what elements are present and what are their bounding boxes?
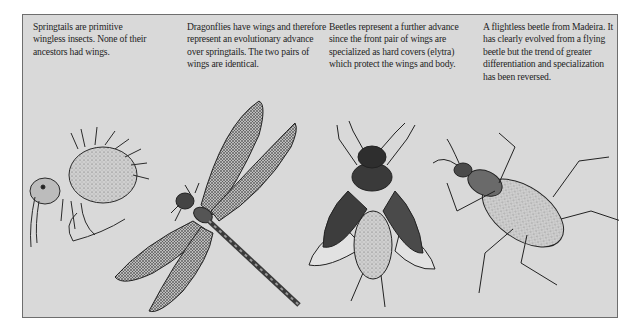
figure-panel: Springtails are primitive wingless insec… [22, 14, 618, 318]
ground-beetle-illustration [433, 133, 619, 293]
flying-beetle-illustration [309, 121, 435, 307]
illustrations [23, 15, 619, 319]
dragonfly-illustration [115, 101, 299, 312]
springtail-illustration [30, 127, 149, 247]
